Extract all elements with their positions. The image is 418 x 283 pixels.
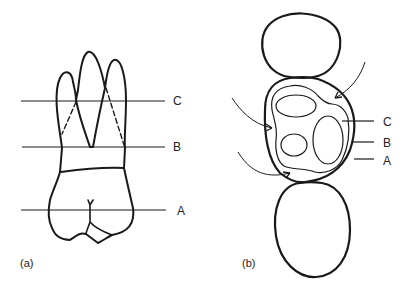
outer-tooth-outline bbox=[265, 77, 354, 182]
lower-adjacent-tooth bbox=[275, 182, 350, 277]
root-dashed-left bbox=[62, 102, 76, 134]
pulp-chamber-palatal bbox=[313, 116, 343, 164]
caption-a: (a) bbox=[20, 257, 33, 269]
level-label-b: B bbox=[173, 140, 181, 154]
upper-adjacent-tooth bbox=[262, 13, 340, 78]
pulp-chamber-mesiobuccal bbox=[276, 95, 316, 117]
label-b-b: B bbox=[383, 136, 391, 150]
cemento-enamel-junction bbox=[60, 168, 124, 172]
label-b-a: A bbox=[383, 154, 391, 168]
panel-b-cross-section bbox=[262, 13, 354, 277]
level-label-a: A bbox=[177, 204, 185, 218]
caption-b: (b) bbox=[242, 257, 255, 269]
panel-a-level-lines bbox=[21, 101, 166, 210]
root-dashed-right bbox=[106, 88, 124, 145]
level-label-c: C bbox=[173, 94, 182, 108]
label-b-c: C bbox=[383, 115, 392, 129]
pulp-chamber-distobuccal bbox=[281, 134, 307, 156]
root-furcation bbox=[76, 88, 105, 147]
arrow-lower-left bbox=[238, 152, 290, 175]
arrow-upper-right bbox=[335, 62, 365, 98]
crown-fissure bbox=[86, 200, 112, 235]
tooth-diagram: C B A (a) C B A (b) bbox=[0, 0, 418, 283]
panel-b-leader-lines bbox=[342, 121, 374, 159]
